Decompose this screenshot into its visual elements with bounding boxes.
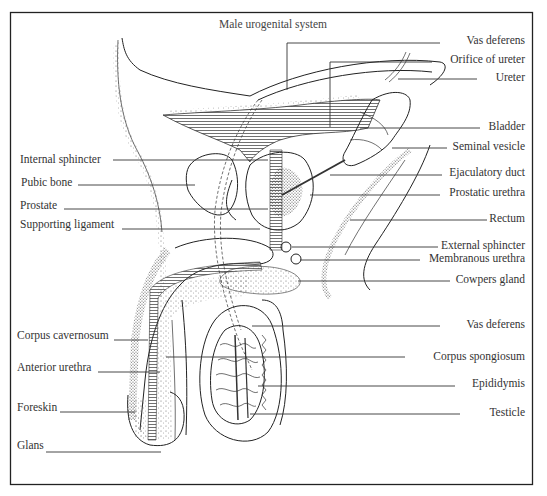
svg-text:Ureter: Ureter bbox=[496, 71, 526, 83]
label-anterior-urethra: Anterior urethra bbox=[17, 361, 160, 373]
svg-text:Vas deferens: Vas deferens bbox=[467, 34, 526, 46]
label-prostate: Prostate bbox=[20, 199, 268, 211]
label-supporting-ligament: Supporting ligament bbox=[20, 218, 260, 231]
anatomical-diagram: Male urogenital system bbox=[0, 0, 547, 496]
svg-text:Orifice of ureter: Orifice of ureter bbox=[450, 53, 525, 65]
svg-text:Corpus spongiosum: Corpus spongiosum bbox=[433, 350, 525, 363]
svg-text:Supporting ligament: Supporting ligament bbox=[20, 218, 115, 231]
svg-text:Seminal vesicle: Seminal vesicle bbox=[453, 140, 526, 152]
svg-text:Vas deferens: Vas deferens bbox=[467, 318, 526, 330]
label-glans: Glans bbox=[17, 439, 161, 452]
svg-text:Anterior urethra: Anterior urethra bbox=[17, 361, 91, 373]
svg-text:Prostatic urethra: Prostatic urethra bbox=[449, 186, 525, 198]
label-vas-deferens-bottom: Vas deferens bbox=[252, 318, 526, 330]
svg-text:Epididymis: Epididymis bbox=[472, 377, 526, 390]
label-corpus-spongiosum: Corpus spongiosum bbox=[166, 350, 525, 363]
diagram-title: Male urogenital system bbox=[219, 18, 327, 31]
svg-text:Prostate: Prostate bbox=[20, 199, 57, 211]
svg-text:Ejaculatory duct: Ejaculatory duct bbox=[449, 166, 525, 179]
anatomy-drawing bbox=[116, 38, 445, 446]
label-seminal-vesicle: Seminal vesicle bbox=[392, 140, 525, 152]
svg-text:Bladder: Bladder bbox=[489, 120, 526, 132]
svg-text:External sphincter: External sphincter bbox=[441, 239, 525, 252]
label-epididymis: Epididymis bbox=[258, 377, 526, 390]
label-testicle: Testicle bbox=[250, 406, 525, 418]
svg-text:Testicle: Testicle bbox=[489, 406, 525, 418]
label-bladder: Bladder bbox=[360, 120, 525, 132]
svg-text:Foreskin: Foreskin bbox=[17, 401, 58, 413]
svg-text:Rectum: Rectum bbox=[489, 212, 525, 224]
label-rectum: Rectum bbox=[350, 212, 525, 224]
svg-text:Cowpers gland: Cowpers gland bbox=[456, 273, 526, 286]
label-foreskin: Foreskin bbox=[17, 401, 135, 413]
label-membranous-urethra: Membranous urethra bbox=[300, 252, 525, 264]
svg-text:Internal sphincter: Internal sphincter bbox=[20, 153, 101, 166]
label-external-sphincter: External sphincter bbox=[292, 239, 525, 252]
label-ejaculatory-duct: Ejaculatory duct bbox=[330, 166, 526, 179]
svg-text:Pubic bone: Pubic bone bbox=[21, 176, 72, 188]
svg-text:Membranous urethra: Membranous urethra bbox=[429, 252, 525, 264]
label-pubic-bone: Pubic bone bbox=[21, 176, 195, 188]
label-prostatic-urethra: Prostatic urethra bbox=[310, 186, 525, 198]
label-cowpers-gland: Cowpers gland bbox=[298, 273, 525, 286]
svg-text:Corpus cavernosum: Corpus cavernosum bbox=[17, 329, 109, 342]
label-corpus-cavernosum: Corpus cavernosum bbox=[17, 329, 148, 342]
svg-text:Glans: Glans bbox=[17, 439, 44, 451]
label-ureter: Ureter bbox=[398, 71, 525, 83]
